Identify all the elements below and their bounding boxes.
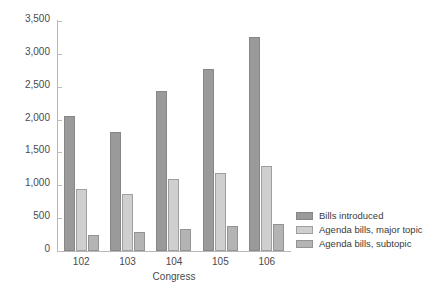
bar <box>215 173 226 251</box>
y-tick-mark <box>58 251 62 252</box>
legend-swatch <box>296 226 313 234</box>
bar <box>134 232 145 251</box>
bar <box>261 166 272 251</box>
bar-group <box>104 21 150 251</box>
plot-area <box>58 21 290 251</box>
x-axis-title: Congress <box>58 271 290 282</box>
y-tick-label: 3,000 <box>25 47 50 57</box>
bar <box>122 194 133 251</box>
bar <box>180 229 191 251</box>
y-tick-label: 3,500 <box>25 14 50 24</box>
x-tick-label: 103 <box>104 256 150 267</box>
bar-group <box>151 21 197 251</box>
x-tick-label: 104 <box>151 256 197 267</box>
bar-group <box>58 21 104 251</box>
bar <box>227 226 238 251</box>
legend-label: Bills introduced <box>319 210 383 221</box>
bar-group <box>197 21 243 251</box>
x-tick-label: 106 <box>244 256 290 267</box>
bar <box>156 91 167 251</box>
legend-item: Agenda bills, subtopic <box>296 237 423 250</box>
bar <box>110 132 121 251</box>
y-tick-label: 1,000 <box>25 178 50 188</box>
bar <box>203 69 214 251</box>
y-tick-label: 500 <box>33 211 50 221</box>
y-tick-label: 1,500 <box>25 145 50 155</box>
x-tick-label: 102 <box>58 256 104 267</box>
bar <box>88 235 99 251</box>
legend-label: Agenda bills, subtopic <box>319 238 411 249</box>
bar <box>64 116 75 251</box>
y-tick-label: 2,000 <box>25 113 50 123</box>
legend-item: Agenda bills, major topic <box>296 223 423 236</box>
bar-group <box>244 21 290 251</box>
x-tick-label: 105 <box>197 256 243 267</box>
legend-swatch <box>296 212 313 220</box>
bar <box>273 224 284 251</box>
legend-swatch <box>296 240 313 248</box>
bar <box>76 189 87 251</box>
bar <box>168 179 179 251</box>
legend-item: Bills introduced <box>296 209 423 222</box>
legend-label: Agenda bills, major topic <box>319 224 423 235</box>
chart-legend: Bills introducedAgenda bills, major topi… <box>296 209 423 251</box>
bar-chart: 05001,0001,5002,0002,5003,0003,500 10210… <box>0 0 424 289</box>
bar <box>249 37 260 251</box>
x-axis-line <box>57 251 291 252</box>
y-tick-label: 2,500 <box>25 80 50 90</box>
y-tick-label: 0 <box>44 244 50 254</box>
